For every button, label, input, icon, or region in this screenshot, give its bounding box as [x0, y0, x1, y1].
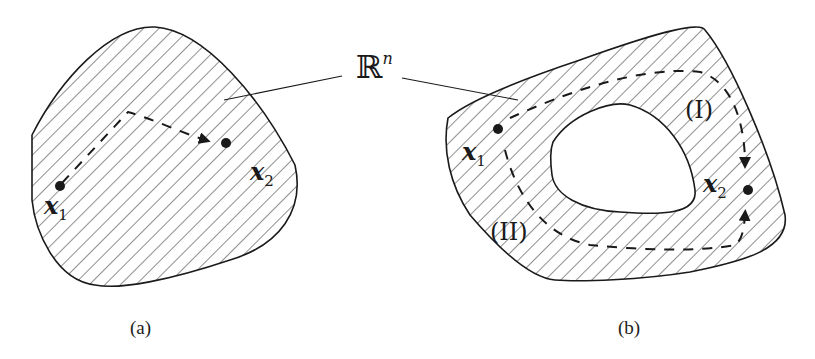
figure-canvas: x1 x2 (a) ℝn x1 x2 (I) (II) (b) — [0, 0, 815, 359]
path-label-I: (I) — [685, 96, 713, 124]
path-label-II: (II) — [490, 218, 528, 246]
point-x1-b — [493, 124, 503, 134]
point-x2-b — [743, 185, 753, 195]
caption-b: (b) — [618, 317, 640, 339]
caption-a: (a) — [130, 317, 151, 339]
panel-a: x1 x2 (a) — [32, 27, 297, 339]
space-label-rn: ℝn — [356, 48, 393, 86]
panel-b: x1 x2 (I) (II) (b) — [446, 27, 785, 339]
point-x1-a — [55, 181, 65, 191]
point-x2-a — [221, 138, 231, 148]
